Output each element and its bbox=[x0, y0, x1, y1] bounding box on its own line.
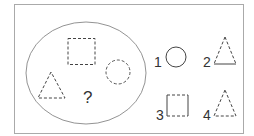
option-4-dashed-triangle bbox=[214, 90, 236, 116]
option-1-label: 1 bbox=[154, 54, 162, 70]
option-4-label: 4 bbox=[203, 107, 211, 123]
option-2-left-side bbox=[214, 37, 225, 64]
option-2[interactable]: 2 bbox=[203, 37, 236, 70]
option-4[interactable]: 4 bbox=[203, 90, 236, 123]
set-dashed-circle bbox=[106, 60, 130, 84]
option-2-right-side bbox=[225, 37, 236, 64]
set-ellipse bbox=[26, 22, 146, 124]
set-dashed-triangle bbox=[38, 72, 65, 98]
puzzle-diagram: ? 1 2 3 4 bbox=[0, 0, 254, 136]
option-2-label: 2 bbox=[203, 54, 211, 70]
option-3[interactable]: 3 bbox=[156, 95, 188, 123]
option-1-solid-circle bbox=[166, 47, 186, 67]
option-1[interactable]: 1 bbox=[154, 47, 186, 70]
set-dashed-square bbox=[68, 39, 95, 65]
option-3-label: 3 bbox=[156, 107, 164, 123]
shape-set: ? bbox=[26, 22, 146, 124]
question-mark: ? bbox=[83, 88, 92, 107]
